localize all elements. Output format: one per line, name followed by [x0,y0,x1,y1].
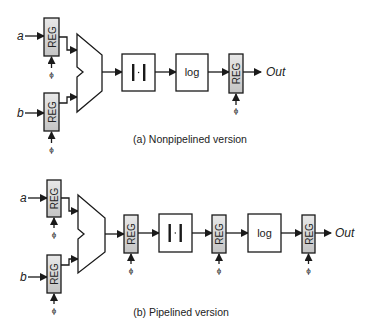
pipeline-reg-1: REG [124,215,138,253]
reg-label: REG [231,62,242,84]
abs-bar-left [169,224,171,242]
abs-bar-right [143,64,145,81]
output-label: Out [266,65,286,79]
clock-label: ϕ [306,266,311,275]
abs-bar-left [132,64,134,81]
log-label: log [257,227,272,239]
log-block: log [248,214,281,252]
reg-label: REG [214,223,225,245]
log-block: log [176,54,208,91]
reg-label: REG [49,187,60,209]
reg-a: REG [44,18,59,56]
reg-out: REG [302,215,315,253]
clock-label: ϕ [52,230,57,239]
reg-out: REG [229,54,243,93]
abs-block [159,214,192,252]
wire-reg-a-to-mux [59,37,77,50]
pipeline-reg-2: REG [212,215,226,253]
reg-b: REG [47,255,61,293]
nonpipelined-diagram: a REG ϕ b REG ϕ l [17,18,286,154]
caption-b: (b) Pipelined version [133,306,229,318]
reg-label: REG [304,223,315,245]
wire-reg-b-to-mux [61,259,78,265]
clock-label: ϕ [234,106,239,115]
input-a-label: a [17,29,24,43]
reg-label: REG [47,101,58,123]
clock-label: ϕ [49,70,54,79]
clock-label: ϕ [217,266,222,275]
subtractor-block [78,195,105,273]
abs-bar-right [180,224,182,242]
wire-reg-b-to-mux [59,97,77,103]
reg-b: REG [44,93,59,131]
reg-label: REG [126,223,137,245]
pipelined-diagram: a REG ϕ b REG ϕ REG ϕ [20,180,355,318]
subtractor-block [77,34,102,112]
reg-a: REG [47,180,61,217]
output-label: Out [335,226,355,240]
wire-reg-a-to-mux [61,198,78,211]
reg-label: REG [47,26,58,48]
log-label: log [185,66,200,78]
caption-a: (a) Nonpipelined version [133,133,247,145]
input-a-label: a [20,191,27,205]
clock-label: ϕ [129,266,134,275]
clock-label: ϕ [52,306,57,315]
reg-label: REG [49,263,60,285]
input-b-label: b [17,106,24,120]
clock-label: ϕ [49,145,54,154]
diagram-canvas: a REG ϕ b REG ϕ l [0,0,370,323]
abs-block [122,54,155,91]
input-b-label: b [20,270,27,284]
